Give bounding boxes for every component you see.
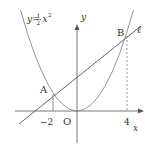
line-l [19, 26, 141, 124]
y-axis-label: y [80, 12, 87, 22]
origin-label: O [63, 116, 71, 127]
tick-4-label: 4 [124, 117, 130, 127]
tick-neg2-label: −2 [40, 117, 53, 127]
point-a-label: A [39, 84, 48, 95]
line-l-label: ℓ [137, 24, 141, 35]
frac-denominator: 2 [37, 19, 41, 26]
y-axis-arrow-icon [75, 24, 80, 30]
x-axis-arrow-icon [138, 109, 144, 114]
curve-var: x [43, 14, 48, 24]
curve-exponent: 2 [48, 12, 52, 18]
frac-numerator: 1 [37, 12, 41, 19]
coordinate-graph: y= 1 2 x 2 y x O −2 4 A B ℓ [0, 0, 150, 153]
x-axis-label: x [133, 123, 138, 133]
point-b-label: B [117, 27, 124, 38]
